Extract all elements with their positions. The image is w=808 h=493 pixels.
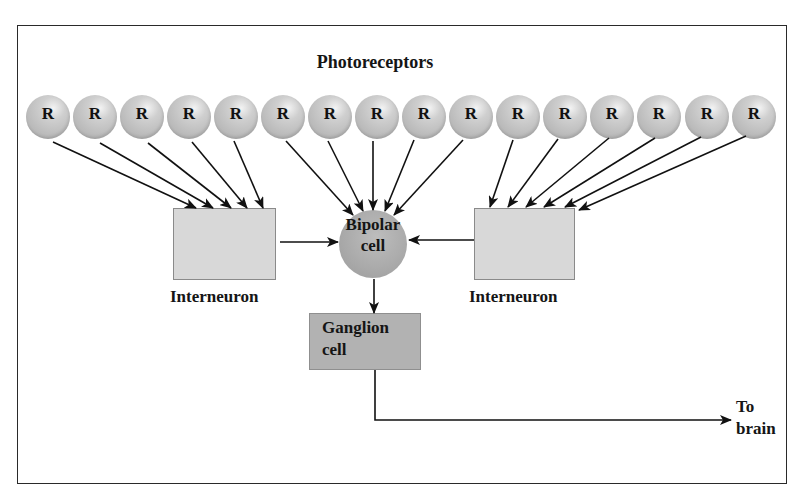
arrow-r3-interneuron-left [148,143,231,208]
arrow-ganglion-brain [375,370,731,420]
arrow-r7-bipolar [328,141,363,211]
arrow-r6-bipolar [286,141,353,215]
arrow-r13-interneuron-right [526,138,609,207]
arrow-r16-interneuron-right [579,136,746,210]
arrow-r1-interneuron-left [53,142,196,208]
arrow-r2-interneuron-left [100,143,213,208]
arrow-r14-interneuron-right [544,138,655,207]
arrow-r9-bipolar [385,140,414,211]
arrow-r15-interneuron-right [565,137,701,207]
arrow-r10-bipolar [394,140,463,215]
connection-arrows [0,0,808,493]
retina-convergence-diagram: Photoreceptors R R R R R R R R R R R R R… [0,0,808,493]
arrow-r12-interneuron-right [508,139,558,207]
arrow-r11-interneuron-right [490,140,513,207]
